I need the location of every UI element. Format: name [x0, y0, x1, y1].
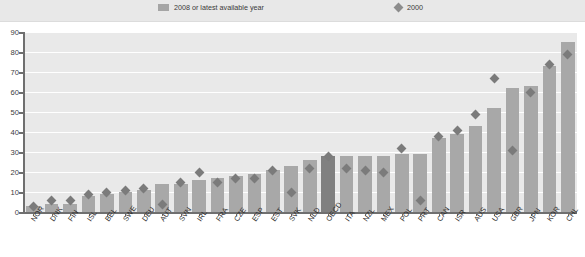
y-axis-tick [19, 52, 23, 54]
bar-group[interactable] [487, 32, 501, 212]
y-axis-tick [19, 32, 23, 34]
bar-group[interactable] [469, 32, 483, 212]
bar-group[interactable] [395, 32, 409, 212]
y-axis-tick [19, 112, 23, 114]
bar-group[interactable] [358, 32, 372, 212]
bar-group[interactable] [303, 32, 317, 212]
y-axis-tick-label: 90 [3, 28, 19, 37]
y-axis-line [23, 32, 25, 213]
bar-group[interactable] [340, 32, 354, 212]
y-axis-tick-label: 0 [3, 208, 19, 217]
y-axis-tick [19, 92, 23, 94]
y-axis-tick-label: 70 [3, 68, 19, 77]
y-axis-tick [19, 192, 23, 194]
y-axis-labels: 0102030405060708090 [0, 32, 19, 213]
bar[interactable] [524, 86, 538, 212]
bar-group[interactable] [284, 32, 298, 212]
bar-group[interactable] [100, 32, 114, 212]
y-axis-tick [19, 132, 23, 134]
bar[interactable] [469, 126, 483, 212]
legend-entry-points: 2000 [395, 3, 423, 12]
legend-label-bars: 2008 or latest available year [174, 3, 264, 12]
x-axis-labels: NORDNKFINISLBELSWEDEUAUTSVNIRLFRACZEESPE… [24, 213, 577, 257]
bar-group[interactable] [82, 32, 96, 212]
bar[interactable] [432, 138, 446, 212]
y-axis-tick-label: 40 [3, 128, 19, 137]
bar-group[interactable] [432, 32, 446, 212]
bar-group[interactable] [266, 32, 280, 212]
plot-area [24, 32, 577, 212]
bar-group[interactable] [63, 32, 77, 212]
bar-group[interactable] [377, 32, 391, 212]
legend-entry-bars: 2008 or latest available year [158, 3, 264, 12]
bar[interactable] [487, 108, 501, 212]
bar-group[interactable] [26, 32, 40, 212]
bar-group[interactable] [155, 32, 169, 212]
bar-group[interactable] [229, 32, 243, 212]
bar-group[interactable] [248, 32, 262, 212]
bar-swatch-icon [158, 4, 169, 11]
bar-group[interactable] [524, 32, 538, 212]
bar-group[interactable] [45, 32, 59, 212]
bar-group[interactable] [450, 32, 464, 212]
bars-layer [24, 32, 577, 212]
bar-group[interactable] [321, 32, 335, 212]
bar-group[interactable] [506, 32, 520, 212]
y-axis-tick [19, 152, 23, 154]
y-axis-tick-label: 10 [3, 188, 19, 197]
chart-legend: 2008 or latest available year 2000 [0, 0, 585, 22]
diamond-icon [394, 3, 404, 13]
y-axis-tick-label: 20 [3, 168, 19, 177]
bar-group[interactable] [413, 32, 427, 212]
bar-group[interactable] [192, 32, 206, 212]
bar[interactable] [192, 180, 206, 212]
y-axis-tick [19, 72, 23, 74]
y-axis-tick [19, 212, 23, 214]
chart-container: 2008 or latest available year 2000 01020… [0, 0, 585, 257]
bar[interactable] [543, 66, 557, 212]
y-axis-tick-label: 80 [3, 48, 19, 57]
y-axis-tick [19, 172, 23, 174]
bar[interactable] [450, 134, 464, 212]
y-axis-tick-label: 50 [3, 108, 19, 117]
y-axis-tick-label: 60 [3, 88, 19, 97]
y-axis-tick-label: 30 [3, 148, 19, 157]
bar[interactable] [395, 154, 409, 212]
bar[interactable] [561, 42, 575, 212]
legend-label-points: 2000 [407, 3, 423, 12]
